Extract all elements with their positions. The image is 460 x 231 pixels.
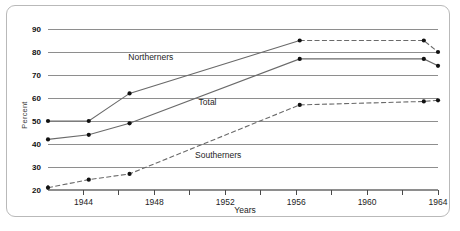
y-tick-label: 60 (32, 94, 41, 103)
y-tick-labels: 2030405060708090 (32, 25, 41, 195)
data-point (87, 178, 91, 182)
y-tick-label: 20 (32, 186, 41, 195)
y-tick-label: 30 (32, 163, 41, 172)
x-tick-label: 1948 (145, 197, 164, 207)
y-tick-label: 90 (32, 25, 41, 34)
data-point (127, 172, 131, 176)
data-point (87, 133, 91, 137)
data-point (87, 119, 91, 123)
series-label-southerners: Southerners (195, 150, 241, 160)
y-tick-label: 50 (32, 117, 41, 126)
line-chart: 2030405060708090 19441948195219561960196… (0, 0, 460, 231)
data-point (46, 137, 50, 141)
data-point (422, 99, 426, 103)
series-northerners-tail (300, 41, 438, 53)
data-point (46, 119, 50, 123)
data-point (422, 38, 426, 42)
data-point (436, 50, 440, 54)
series-total (48, 59, 438, 139)
data-point (422, 57, 426, 61)
x-tick-label: 1964 (429, 197, 448, 207)
y-tick-label: 70 (32, 71, 41, 80)
data-point (46, 186, 50, 190)
x-tick-label: 1952 (216, 197, 235, 207)
data-point (298, 57, 302, 61)
x-tick-label: 1960 (358, 197, 377, 207)
y-axis-title: Percent (20, 101, 29, 129)
x-tick-label: 1956 (287, 197, 306, 207)
chart-screenshot: 2030405060708090 19441948195219561960196… (0, 0, 460, 231)
series-label-total: Total (199, 97, 217, 107)
x-tick-label: 1944 (74, 197, 93, 207)
x-axis-title: Years (234, 205, 255, 215)
y-tick-label: 80 (32, 48, 41, 57)
y-tick-label: 40 (32, 140, 41, 149)
series-northerners (48, 41, 300, 122)
data-point (436, 98, 440, 102)
series-label-northerners: Northerners (128, 52, 173, 62)
series-lines (48, 41, 438, 188)
x-tick-labels: 194419481952195619601964 (74, 197, 448, 207)
data-point (298, 38, 302, 42)
data-point (127, 121, 131, 125)
data-point (298, 103, 302, 107)
x-axis (48, 185, 438, 195)
data-point (127, 91, 131, 95)
data-point (436, 64, 440, 68)
